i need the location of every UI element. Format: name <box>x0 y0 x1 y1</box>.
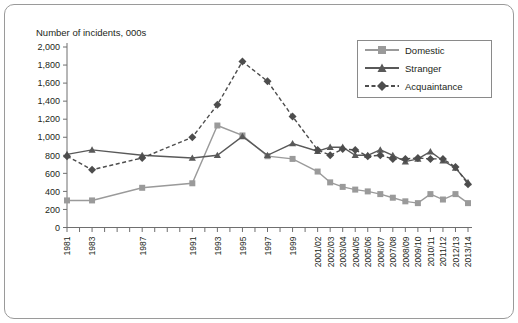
y-axis-tick-label: 1,400 <box>37 96 60 106</box>
x-axis-tick-label: 1995 <box>238 236 248 255</box>
x-axis-tick-label: 2002/03 <box>326 236 336 267</box>
data-point-marker <box>326 151 334 159</box>
x-axis-tick-label: 2012/13 <box>451 236 461 267</box>
x-axis-tick-label: 2006/07 <box>376 236 386 267</box>
x-axis-tick-label: 2013/14 <box>463 236 473 267</box>
legend-key-stranger <box>365 62 399 74</box>
data-point-marker <box>339 145 347 153</box>
data-point-marker <box>427 191 433 197</box>
chart-legend: Domestic Stranger Acquaintance <box>357 40 492 98</box>
x-axis-tick-label: 2001/02 <box>313 236 323 267</box>
data-point-marker <box>390 195 396 201</box>
legend-item-stranger: Stranger <box>358 59 491 77</box>
data-point-marker <box>465 200 471 206</box>
data-point-marker <box>189 180 195 186</box>
x-axis-tick-label: 1983 <box>87 236 97 255</box>
data-point-marker <box>352 187 358 193</box>
legend-label-acquaintance: Acquaintance <box>405 81 463 92</box>
x-axis-tick-label: 1997 <box>263 236 273 255</box>
x-axis-tick-label: 2005/06 <box>363 236 373 267</box>
legend-key-domestic <box>365 44 399 56</box>
y-axis-tick-label: 1,800 <box>37 60 60 70</box>
y-axis-tick-label: 600 <box>45 169 60 179</box>
x-axis-tick-label: 2007/08 <box>388 236 398 267</box>
data-point-marker <box>214 123 220 129</box>
data-point-marker <box>426 155 434 163</box>
data-point-marker <box>139 185 145 191</box>
data-point-marker <box>452 191 458 197</box>
y-axis-tick-label: 200 <box>45 205 60 215</box>
data-point-marker <box>213 101 221 109</box>
x-axis-tick-label: 1987 <box>138 236 148 255</box>
y-axis-tick-label: 0 <box>55 223 60 233</box>
x-axis-tick-label: 1991 <box>188 236 198 255</box>
x-axis-tick-label: 2008/09 <box>401 236 411 267</box>
y-axis-tick-label: 1,200 <box>37 114 60 124</box>
x-axis-tick-label: 2011/12 <box>438 236 448 266</box>
data-point-marker <box>289 140 296 146</box>
legend-key-acquaintance <box>365 80 399 92</box>
x-axis-tick-label: 2010/11 <box>426 236 436 266</box>
data-point-marker <box>440 197 446 203</box>
legend-item-domestic: Domestic <box>358 41 491 59</box>
x-axis-tick-label: 1999 <box>288 236 298 255</box>
data-point-marker <box>427 148 434 154</box>
series-domestic <box>64 123 471 207</box>
y-axis-tick-label: 400 <box>45 187 60 197</box>
data-point-marker <box>377 191 383 197</box>
x-axis-tick-label: 1993 <box>213 236 223 255</box>
y-axis-tick-label: 1,600 <box>37 78 60 88</box>
legend-label-stranger: Stranger <box>405 63 441 74</box>
x-axis-tick-label: 1981 <box>62 236 72 255</box>
data-point-marker <box>88 166 96 174</box>
data-point-marker <box>365 188 371 194</box>
data-point-marker <box>327 179 333 185</box>
data-point-marker <box>340 184 346 190</box>
data-point-marker <box>64 197 70 203</box>
data-point-marker <box>89 197 95 203</box>
data-point-marker <box>238 57 246 65</box>
data-point-marker <box>290 156 296 162</box>
data-point-marker <box>315 169 321 175</box>
y-axis-tick-label: 2,000 <box>37 42 60 52</box>
data-point-marker <box>188 133 196 141</box>
data-point-marker <box>402 198 408 204</box>
legend-item-acquaintance: Acquaintance <box>358 77 491 95</box>
x-axis-tick-label: 2004/05 <box>351 236 361 267</box>
chart-figure: Number of incidents, 000s 02004006008001… <box>0 0 518 323</box>
y-axis-tick-label: 1,000 <box>37 132 60 142</box>
data-point-marker <box>415 200 421 206</box>
legend-label-domestic: Domestic <box>405 45 445 56</box>
y-axis-tick-label: 800 <box>45 151 60 161</box>
x-axis-tick-label: 2003/04 <box>338 236 348 267</box>
x-axis-tick-label: 2009/10 <box>413 236 423 267</box>
